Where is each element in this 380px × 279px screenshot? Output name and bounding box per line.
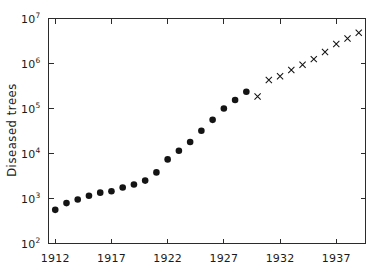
data-point-projected-1931 bbox=[266, 77, 272, 83]
data-point-projected-1935 bbox=[311, 56, 317, 62]
data-point-observed-1926 bbox=[209, 117, 216, 124]
x-tick-label-1917: 1917 bbox=[97, 252, 126, 265]
axis-frame bbox=[49, 19, 366, 244]
data-point-projected-1932 bbox=[277, 73, 283, 79]
x-tick-label-1927: 1927 bbox=[209, 252, 238, 265]
y-axis-ticks bbox=[49, 19, 366, 244]
data-point-projected-1937 bbox=[333, 41, 339, 47]
data-point-observed-1916 bbox=[97, 189, 104, 196]
data-point-observed-1928 bbox=[232, 97, 239, 104]
data-point-observed-1914 bbox=[74, 196, 81, 203]
y-tick-label-6: 106 bbox=[21, 56, 40, 71]
data-point-observed-1919 bbox=[131, 181, 138, 188]
x-tick-label-1937: 1937 bbox=[322, 252, 351, 265]
y-tick-label-3: 103 bbox=[21, 191, 40, 206]
plot-frame bbox=[49, 19, 366, 244]
y-tick-label-2: 102 bbox=[21, 236, 40, 251]
x-tick-label-1932: 1932 bbox=[266, 252, 295, 265]
data-point-projected-1936 bbox=[322, 49, 328, 55]
data-point-observed-1925 bbox=[198, 127, 205, 134]
data-point-observed-1918 bbox=[119, 184, 126, 191]
data-point-observed-1912 bbox=[52, 207, 59, 214]
x-axis-tick-labels: 191219171922192719321937 bbox=[41, 252, 351, 265]
x-tick-label-1912: 1912 bbox=[41, 252, 70, 265]
data-point-projected-1939 bbox=[356, 30, 362, 36]
data-point-projected-1934 bbox=[299, 62, 305, 68]
x-axis-ticks bbox=[55, 19, 336, 244]
data-point-observed-1920 bbox=[142, 177, 149, 184]
data-point-observed-1923 bbox=[176, 147, 183, 154]
data-point-projected-1938 bbox=[344, 35, 350, 41]
y-tick-label-4: 104 bbox=[21, 146, 40, 161]
data-point-projected-1930 bbox=[254, 93, 260, 99]
data-point-projected-1933 bbox=[288, 67, 294, 73]
chart-figure: 191219171922192719321937 102103104105106… bbox=[0, 0, 380, 279]
series-observed-points bbox=[52, 89, 250, 214]
data-point-observed-1913 bbox=[63, 200, 70, 207]
data-point-observed-1921 bbox=[153, 169, 160, 176]
data-point-observed-1922 bbox=[164, 156, 171, 163]
y-axis-tick-labels: 102103104105106107 bbox=[21, 11, 40, 251]
y-axis-title: Diseased trees bbox=[5, 83, 19, 177]
series-projected-points bbox=[254, 30, 361, 100]
y-tick-label-7: 107 bbox=[21, 11, 40, 26]
data-point-observed-1927 bbox=[221, 105, 228, 112]
y-tick-label-5: 105 bbox=[21, 101, 40, 116]
x-tick-label-1922: 1922 bbox=[153, 252, 182, 265]
scatter-plot-svg: 191219171922192719321937 102103104105106… bbox=[0, 0, 380, 279]
data-point-observed-1929 bbox=[243, 89, 250, 96]
data-point-observed-1917 bbox=[108, 188, 115, 195]
y-axis-title-group: Diseased trees bbox=[5, 83, 19, 177]
data-point-observed-1915 bbox=[86, 192, 93, 199]
data-point-observed-1924 bbox=[187, 139, 194, 146]
